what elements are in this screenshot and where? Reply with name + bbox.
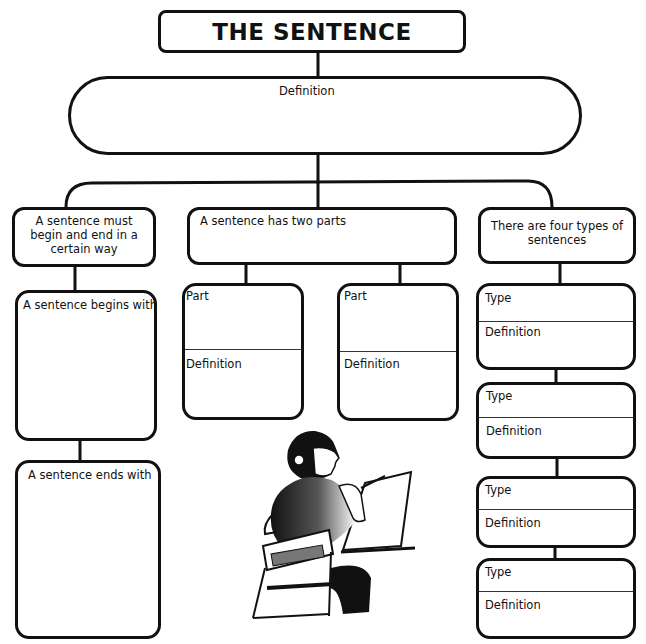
- type-box-2[interactable]: Type Definition: [476, 382, 636, 459]
- type-box-1[interactable]: Type Definition: [476, 283, 636, 370]
- four-types-header-box: There are four types of sentences: [478, 207, 636, 264]
- type-definition-label-2: Definition: [486, 424, 542, 438]
- two-parts-header-box: A sentence has two parts: [187, 207, 457, 265]
- four-types-header-text: There are four types of sentences: [487, 219, 627, 247]
- type-label-2: Type: [486, 389, 512, 403]
- type-divider-4: [479, 591, 633, 592]
- boy-writing-illustration: [243, 428, 423, 623]
- type-label-1: Type: [485, 291, 511, 305]
- type-definition-label-4: Definition: [485, 598, 541, 612]
- ends-with-box[interactable]: A sentence ends with: [15, 460, 161, 639]
- type-definition-label-1: Definition: [485, 325, 541, 339]
- part-definition-label-1: Definition: [186, 357, 242, 371]
- page-title: THE SENTENCE: [212, 19, 411, 45]
- part-divider-2: [340, 351, 456, 352]
- part-label-2: Part: [344, 289, 367, 303]
- definition-box[interactable]: Definition: [68, 76, 582, 155]
- type-box-3[interactable]: Type Definition: [476, 476, 636, 548]
- begin-end-header-box: A sentence must begin and end in a certa…: [12, 207, 156, 267]
- part-box-2[interactable]: Part Definition: [337, 283, 459, 421]
- ends-with-label: A sentence ends with: [28, 468, 152, 482]
- part-definition-label-2: Definition: [344, 357, 400, 371]
- type-divider-1: [479, 321, 633, 322]
- part-label-1: Part: [186, 289, 209, 303]
- type-definition-label-3: Definition: [485, 516, 541, 530]
- type-label-3: Type: [485, 483, 511, 497]
- begin-end-header-text: A sentence must begin and end in a certa…: [25, 214, 143, 256]
- part-divider-1: [185, 349, 301, 350]
- part-box-1[interactable]: Part Definition: [182, 283, 304, 420]
- title-box: THE SENTENCE: [158, 10, 466, 53]
- begins-with-box[interactable]: A sentence begins with: [15, 290, 157, 441]
- type-box-4[interactable]: Type Definition: [476, 558, 636, 639]
- begins-with-label: A sentence begins with: [23, 298, 157, 312]
- definition-label: Definition: [279, 84, 335, 98]
- two-parts-header-text: A sentence has two parts: [200, 214, 346, 228]
- type-label-4: Type: [485, 565, 511, 579]
- type-divider-3: [479, 509, 633, 510]
- type-divider-2: [479, 417, 633, 418]
